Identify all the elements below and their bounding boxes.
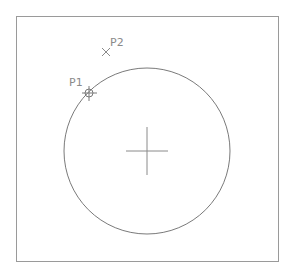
- drawing-canvas: P1 P2: [0, 0, 291, 275]
- point-p1-marker[interactable]: [82, 86, 97, 101]
- center-mark: [126, 127, 168, 175]
- point-p1-label: P1: [69, 76, 83, 89]
- point-p2-label: P2: [110, 36, 124, 49]
- point-p2-marker[interactable]: [102, 48, 110, 56]
